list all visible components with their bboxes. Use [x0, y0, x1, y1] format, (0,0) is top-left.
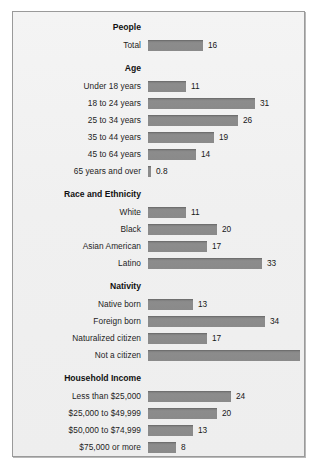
bar-value-label: 17	[212, 330, 221, 347]
bar-value-label: 13	[198, 422, 207, 439]
bar-row-label: Native born	[13, 296, 141, 313]
bar-row: $25,000 to $49,99920	[13, 405, 304, 422]
bar-row-label: Less than $25,000	[13, 388, 141, 405]
bar-row-label: Black	[13, 221, 141, 238]
bar-value-label: 20	[222, 221, 231, 238]
bar	[148, 391, 231, 402]
bar-row-label: $50,000 to $74,999	[13, 422, 141, 439]
bar-track: 26	[148, 112, 304, 129]
bar-row-label: Latino	[13, 255, 141, 272]
bar-row-label: 45 to 64 years	[13, 146, 141, 163]
bar-row: Under 18 years11	[13, 78, 304, 95]
bar-value-label: 14	[201, 146, 210, 163]
bar-track: 16	[148, 37, 304, 54]
bar-row-label: Not a citizen	[13, 347, 141, 364]
bar-row: 65 years and over0.8	[13, 163, 304, 180]
bar-track: 13	[148, 422, 304, 439]
bar-value-label: 31	[260, 95, 269, 112]
bar	[148, 350, 300, 361]
section-header-row: Race and Ethnicity	[13, 185, 304, 204]
bar-row-label: 18 to 24 years	[13, 95, 141, 112]
bar-row-label: 65 years and over	[13, 163, 141, 180]
bar-value-label: 24	[236, 388, 245, 405]
bar-track: 8	[148, 439, 304, 456]
bar	[148, 299, 193, 310]
bar	[148, 333, 207, 344]
bar-track: 11	[148, 78, 304, 95]
bar-value-label: 16	[208, 37, 217, 54]
bar	[148, 258, 262, 269]
chart-screenshot: PeopleTotal16AgeUnder 18 years1118 to 24…	[0, 0, 317, 474]
bar-track: 17	[148, 238, 304, 255]
bar-row-label: Total	[13, 37, 141, 54]
bar-row: Black20	[13, 221, 304, 238]
bar-row: 18 to 24 years31	[13, 95, 304, 112]
section-header-row: Nativity	[13, 277, 304, 296]
bar	[148, 316, 265, 327]
horizontal-bar-chart: PeopleTotal16AgeUnder 18 years1118 to 24…	[13, 18, 304, 457]
bar-track: 14	[148, 146, 304, 163]
bar-row: Foreign born34	[13, 313, 304, 330]
section-header-row: People	[13, 18, 304, 37]
bar-row: $75,000 or more8	[13, 439, 304, 456]
bar	[148, 115, 238, 126]
bar-row-label: 35 to 44 years	[13, 129, 141, 146]
section-header-label: Race and Ethnicity	[13, 185, 141, 204]
bar	[148, 425, 193, 436]
bar-row: 25 to 34 years26	[13, 112, 304, 129]
bar-track: 19	[148, 129, 304, 146]
bar-value-label: 0.8	[156, 163, 168, 180]
bar-value-label: 13	[198, 296, 207, 313]
bar-track: 33	[148, 255, 304, 272]
bar-row: Not a citizen44	[13, 347, 304, 364]
bar-value-label: 20	[222, 405, 231, 422]
bar-track: 13	[148, 296, 304, 313]
bar-track: 11	[148, 204, 304, 221]
section-header-label: Household Income	[13, 369, 141, 388]
bar-row-label: Asian American	[13, 238, 141, 255]
bar-value-label: 34	[270, 313, 279, 330]
chart-panel-background: PeopleTotal16AgeUnder 18 years1118 to 24…	[13, 12, 304, 456]
section-header-label: People	[13, 18, 141, 37]
bar-row: Total16	[13, 37, 304, 54]
bar-row-label: Naturalized citizen	[13, 330, 141, 347]
bar-row: Asian American17	[13, 238, 304, 255]
bar-row: Less than $25,00024	[13, 388, 304, 405]
bar	[148, 149, 196, 160]
bar-value-label: 11	[191, 204, 200, 221]
bar	[148, 241, 207, 252]
bar-row: Naturalized citizen17	[13, 330, 304, 347]
bar-track: 17	[148, 330, 304, 347]
bar	[148, 166, 151, 177]
section-header-label: Nativity	[13, 277, 141, 296]
bar	[148, 81, 186, 92]
bar	[148, 98, 255, 109]
bar-row-label: 25 to 34 years	[13, 112, 141, 129]
bar-track: 0.8	[148, 163, 304, 180]
bar-row: 35 to 44 years19	[13, 129, 304, 146]
bar-row-label: White	[13, 204, 141, 221]
chart-panel: PeopleTotal16AgeUnder 18 years1118 to 24…	[12, 11, 305, 457]
bar-row-label: $75,000 or more	[13, 439, 141, 456]
bar-track: 34	[148, 313, 304, 330]
bar-track: 20	[148, 405, 304, 422]
bar	[148, 224, 217, 235]
bar-value-label: 26	[243, 112, 252, 129]
bar	[148, 132, 214, 143]
bar-row-label: $25,000 to $49,999	[13, 405, 141, 422]
bar-value-label: 33	[267, 255, 276, 272]
bar-track: 31	[148, 95, 304, 112]
bar-value-label: 8	[181, 439, 186, 456]
bar-value-label: 11	[191, 78, 200, 95]
bar-row: $50,000 to $74,99913	[13, 422, 304, 439]
section-header-row: Age	[13, 59, 304, 78]
bar	[148, 408, 217, 419]
bar-track: 24	[148, 388, 304, 405]
bar-row-label: Foreign born	[13, 313, 141, 330]
bar-row: Latino33	[13, 255, 304, 272]
bar-track: 44	[148, 347, 304, 364]
section-spacer	[13, 456, 304, 457]
bar-row: 45 to 64 years14	[13, 146, 304, 163]
bar-row: Native born13	[13, 296, 304, 313]
bar-track: 20	[148, 221, 304, 238]
